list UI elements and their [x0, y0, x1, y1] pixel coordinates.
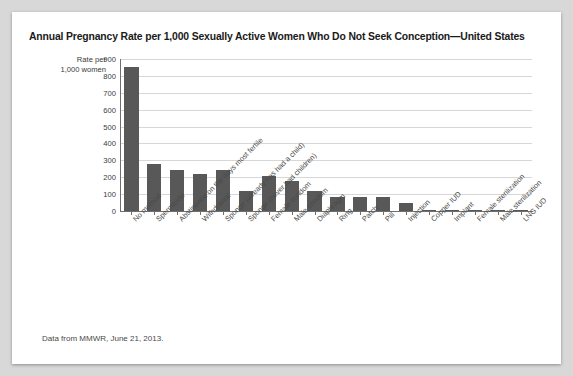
x-axis-tick-label: LNG IUD — [521, 217, 527, 223]
gridline — [120, 143, 532, 144]
y-axis-tick-label: 300 — [90, 156, 116, 165]
x-axis-tick-label: Female condom — [269, 217, 275, 223]
y-axis-tick-labels: 0100200300400500600700800900 — [88, 59, 116, 211]
gridline — [120, 93, 532, 94]
gridline — [120, 59, 532, 60]
y-axis-tick-label: 700 — [90, 88, 116, 97]
y-axis-tick-label: 400 — [90, 139, 116, 148]
x-axis-tick-label: Implant — [452, 217, 458, 223]
x-axis-tick-label: No method — [131, 217, 137, 223]
plot-wrapper: 0100200300400500600700800900 No methodSp… — [12, 12, 561, 364]
x-axis-tick — [521, 212, 522, 215]
x-axis-tick — [315, 212, 316, 215]
bar — [399, 203, 413, 211]
x-axis-tick-label: Diaphragm — [315, 217, 321, 223]
x-axis-tick-label: Abstinence on the days most fertile — [177, 217, 183, 223]
x-axis-tick-label: Male condom — [292, 217, 298, 223]
gridline — [120, 160, 532, 161]
x-axis-tick-label: Copper IUD — [429, 217, 435, 223]
gridline — [120, 110, 532, 111]
gridline — [120, 127, 532, 128]
y-axis-tick-label: 600 — [90, 105, 116, 114]
x-axis-tick-label: Ring — [337, 217, 343, 223]
x-axis-tick-label: Patch — [360, 217, 366, 223]
y-axis-tick-label: 500 — [90, 122, 116, 131]
y-axis-tick-label: 800 — [90, 71, 116, 80]
bar — [124, 67, 138, 211]
figure-card: Annual Pregnancy Rate per 1,000 Sexually… — [12, 12, 561, 364]
x-axis-tick-label: Sponge (never had children) — [246, 217, 252, 223]
x-axis-tick-label: Sponge (already has had a child) — [223, 217, 229, 223]
y-axis-tick-label: 200 — [90, 173, 116, 182]
x-axis-tick-label: Male sterilization — [498, 217, 504, 223]
y-axis-tick-label: 0 — [90, 207, 116, 216]
x-axis-tick-label: Female sterilization — [475, 217, 481, 223]
x-axis-tick-label: Spermicide — [154, 217, 160, 223]
source-note: Data from MMWR, June 21, 2013. — [42, 334, 163, 343]
y-axis-tick-label: 100 — [90, 190, 116, 199]
x-axis-tick-label: Injection — [406, 217, 412, 223]
gridline — [120, 76, 532, 77]
x-axis-tick-label: Pill — [383, 217, 389, 223]
bar — [353, 197, 367, 211]
y-axis-line — [120, 59, 121, 212]
x-axis-tick-label: Withdrawal — [200, 217, 206, 223]
y-axis-tick-label: 900 — [90, 55, 116, 64]
